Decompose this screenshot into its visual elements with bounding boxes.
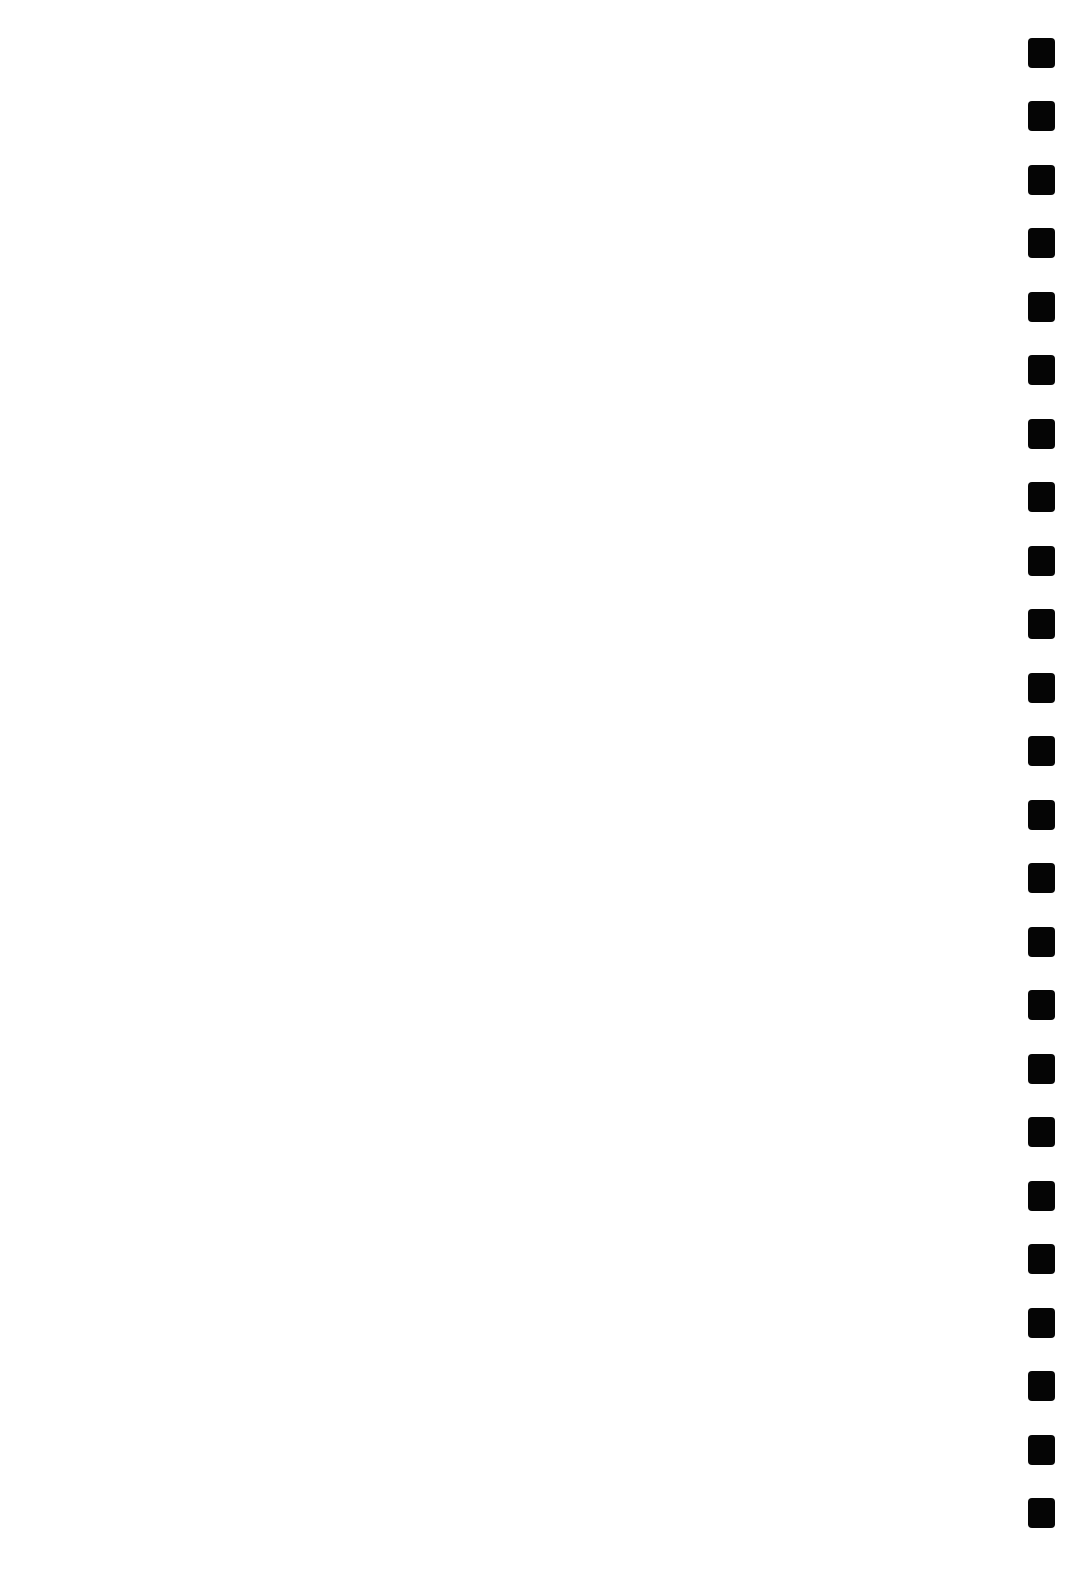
binding-hole: [1028, 355, 1055, 385]
binding-hole: [1028, 38, 1055, 68]
binding-hole: [1028, 1371, 1055, 1401]
binding-hole: [1028, 990, 1055, 1020]
binding-hole: [1028, 292, 1055, 322]
binding-hole: [1028, 1498, 1055, 1528]
binding-hole: [1028, 546, 1055, 576]
binding-hole: [1028, 863, 1055, 893]
binding-hole: [1028, 1181, 1055, 1211]
binding-hole: [1028, 927, 1055, 957]
binding-hole: [1028, 673, 1055, 703]
binding-hole: [1028, 165, 1055, 195]
binding-hole: [1028, 800, 1055, 830]
binding-hole: [1028, 1054, 1055, 1084]
binding-hole: [1028, 1244, 1055, 1274]
binding-hole: [1028, 228, 1055, 258]
blank-notebook-page: [0, 0, 1083, 1585]
binding-hole: [1028, 736, 1055, 766]
binding-hole: [1028, 101, 1055, 131]
binding-hole: [1028, 1117, 1055, 1147]
binding-hole: [1028, 419, 1055, 449]
binding-hole: [1028, 482, 1055, 512]
binding-hole: [1028, 609, 1055, 639]
binding-hole: [1028, 1308, 1055, 1338]
binding-hole: [1028, 1435, 1055, 1465]
